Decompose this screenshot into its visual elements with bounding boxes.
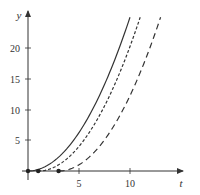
x-tick-label-10: 10 bbox=[125, 178, 135, 189]
y-tick-label-15: 15 bbox=[10, 74, 20, 85]
y-tick-label-10: 10 bbox=[10, 105, 20, 116]
curve-short-dash bbox=[38, 17, 140, 171]
start-point bbox=[36, 169, 40, 173]
chart: 5 10 t 5 10 15 20 y bbox=[0, 0, 200, 195]
x-axis-label: t bbox=[179, 177, 183, 189]
start-point bbox=[56, 169, 60, 173]
curve-long-dash bbox=[59, 17, 161, 171]
x-tick-label-5: 5 bbox=[77, 178, 82, 189]
y-axis-label: y bbox=[16, 9, 22, 21]
y-tick-label-20: 20 bbox=[10, 43, 20, 54]
curve-solid bbox=[28, 17, 130, 171]
y-tick-label-5: 5 bbox=[15, 135, 20, 146]
start-point bbox=[26, 169, 30, 173]
